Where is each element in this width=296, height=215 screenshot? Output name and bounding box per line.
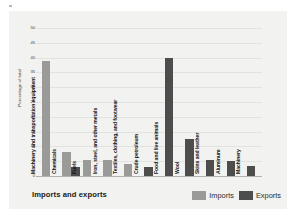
chart-legend: ImportsExports [192,191,281,200]
bar-imports [62,152,70,176]
chart-caption: Imports and exports [32,190,107,199]
bar-imports [42,61,50,176]
bar-imports [103,160,111,176]
bar-exports [165,58,173,176]
bar-category-label: Fuels [71,161,77,174]
bar-exports [206,160,214,176]
y-tick-label-35: 35 [31,70,35,74]
bar-category-label: Chemicals [51,149,57,174]
y-tick-label-0: 0 [33,174,35,178]
bar-category-label: Textiles, clothing, and footwear [112,100,118,174]
page-speck [9,5,12,7]
legend-label: Imports [209,191,234,200]
legend-swatch-imports [192,191,206,200]
bar-category-label: Food and live animals [153,122,159,174]
bar-exports [185,139,193,176]
bar-category-label: Machinery and transportation equipment [30,77,36,174]
y-tick-label-50: 50 [31,26,35,30]
bar-group: Food and live animals [159,28,180,176]
bar-category-label: Wool [174,162,180,174]
bar-exports [144,167,152,176]
bar-imports [83,160,91,176]
legend-item[interactable]: Exports [239,191,281,200]
figure-root: Percentage of total 05101520253035404550… [0,0,296,215]
bar-category-label: Aluminum [215,149,221,174]
bar-category-label: Crude petroleum [133,134,139,174]
bar-category-label: Skins and leather [194,133,200,174]
legend-item[interactable]: Imports [192,191,234,200]
y-axis-title: Percentage of total [17,69,22,107]
gridline-0 [36,176,262,177]
bar-imports [124,164,132,176]
bar-series-container: Machinery and transportation equipmentCh… [36,28,262,176]
bar-exports [227,161,235,176]
chart-footer: Imports and exports ImportsExports [9,181,287,203]
plot-area: Machinery and transportation equipmentCh… [36,28,262,176]
bar-category-label: Machinery [235,149,241,174]
bar-group: Machinery [241,28,262,176]
y-tick-label-40: 40 [31,55,35,59]
legend-label: Exports [256,191,281,200]
y-tick-label-45: 45 [31,41,35,45]
bar-exports [247,166,255,176]
chart-figure-panel: Percentage of total 05101520253035404550… [9,11,287,209]
bar-category-label: Iron, steel, and other metals [92,108,98,174]
legend-swatch-exports [239,191,253,200]
bar-group: Chemicals [57,28,78,176]
